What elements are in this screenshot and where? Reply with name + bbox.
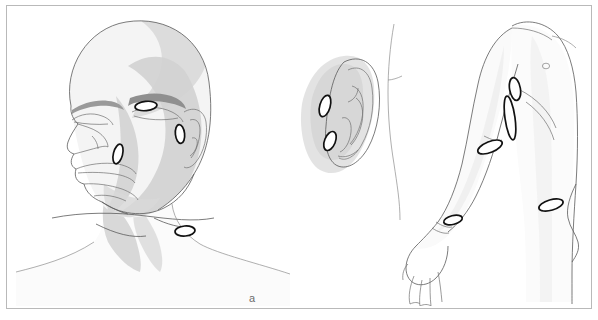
- panel-c-arm-trunk: c: [400, 6, 596, 306]
- panel-label-a: a: [249, 292, 255, 304]
- panel-a-head-neck: a: [8, 6, 298, 306]
- figure-root: a b: [0, 0, 598, 320]
